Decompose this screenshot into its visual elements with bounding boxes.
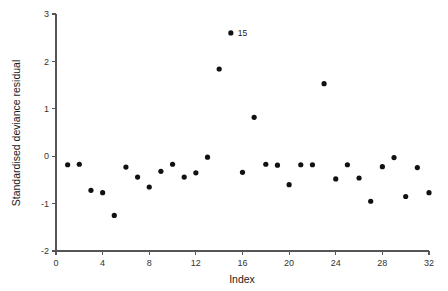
data-point: [205, 155, 210, 160]
x-axis-group: 048121620242832: [53, 251, 434, 268]
y-tick-group: -2-10123: [41, 9, 56, 256]
data-point: [368, 199, 373, 204]
x-tick-label: 12: [191, 258, 201, 268]
data-point: [158, 169, 163, 174]
data-point: [240, 170, 245, 175]
data-point: [287, 182, 292, 187]
plot-canvas: -2-10123 048121620242832 15 Index Standa…: [0, 0, 448, 291]
point-annotations-group: 15: [238, 28, 248, 38]
x-tick-group: 048121620242832: [53, 251, 434, 268]
data-point: [193, 170, 198, 175]
y-tick-label: -2: [41, 246, 49, 256]
data-point: [380, 164, 385, 169]
data-point: [298, 162, 303, 167]
y-tick-label: 0: [44, 151, 49, 161]
data-point: [123, 165, 128, 170]
scatter-plot-figure: -2-10123 048121620242832 15 Index Standa…: [0, 0, 448, 291]
x-tick-label: 8: [147, 258, 152, 268]
x-tick-label: 0: [53, 258, 58, 268]
data-point: [88, 188, 93, 193]
x-tick-label: 28: [377, 258, 387, 268]
data-point: [403, 194, 408, 199]
data-point: [112, 213, 117, 218]
data-point: [356, 175, 361, 180]
data-point: [391, 155, 396, 160]
x-tick-label: 16: [237, 258, 247, 268]
x-tick-label: 32: [424, 258, 434, 268]
data-point: [170, 162, 175, 167]
data-point: [321, 81, 326, 86]
x-axis-title: Index: [229, 273, 255, 285]
data-point: [182, 174, 187, 179]
data-point: [65, 162, 70, 167]
data-point: [77, 162, 82, 167]
y-axis-title: Standardised deviance residual: [10, 60, 22, 207]
point-label: 15: [238, 28, 248, 38]
y-tick-label: 3: [44, 9, 49, 19]
data-point: [217, 66, 222, 71]
x-tick-label: 4: [100, 258, 105, 268]
data-points-group: [65, 30, 432, 218]
data-point: [147, 184, 152, 189]
data-point: [263, 162, 268, 167]
y-axis-group: -2-10123: [41, 9, 56, 256]
data-point: [415, 165, 420, 170]
data-point: [333, 176, 338, 181]
x-tick-label: 24: [331, 258, 341, 268]
data-point: [228, 30, 233, 35]
data-point: [135, 174, 140, 179]
data-point: [310, 162, 315, 167]
y-tick-label: -1: [41, 199, 49, 209]
data-point: [345, 162, 350, 167]
data-point: [426, 190, 431, 195]
y-tick-label: 1: [44, 104, 49, 114]
data-point: [275, 163, 280, 168]
data-point: [252, 115, 257, 120]
data-point: [100, 190, 105, 195]
y-tick-label: 2: [44, 57, 49, 67]
x-tick-label: 20: [284, 258, 294, 268]
